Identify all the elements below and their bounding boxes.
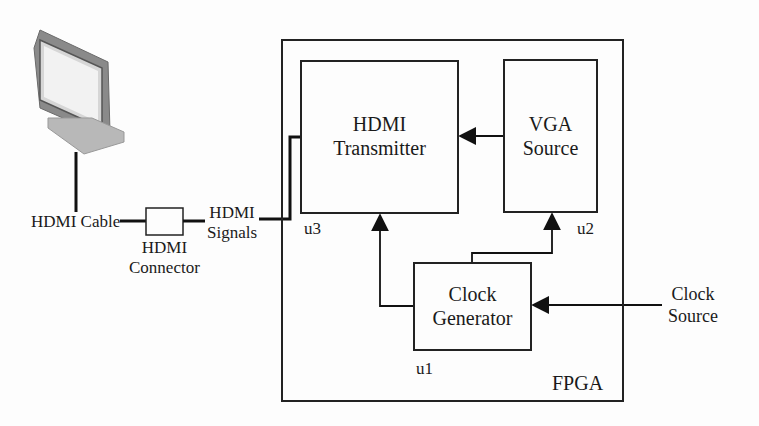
vga-line2: Source xyxy=(505,136,596,160)
clock-source-label: Clock Source xyxy=(668,283,718,327)
hdmi-connector-label: HDMI Connector xyxy=(129,238,200,278)
clock-line2: Generator xyxy=(415,306,530,330)
clock-id: u1 xyxy=(416,359,433,379)
clock-line1: Clock xyxy=(415,282,530,306)
transmitter-line1: HDMI xyxy=(302,112,457,136)
transmitter-line2: Transmitter xyxy=(302,136,457,160)
vga-id: u2 xyxy=(577,219,594,239)
transmitter-id: u3 xyxy=(304,219,321,239)
clock-generator-block[interactable]: Clock Generator xyxy=(413,262,532,351)
hdmi-connector-box xyxy=(146,208,183,235)
hdmi-transmitter-block[interactable]: HDMI Transmitter xyxy=(300,60,459,214)
vga-line1: VGA xyxy=(505,112,596,136)
monitor-icon xyxy=(34,30,124,154)
hdmi-signals-label: HDMI Signals xyxy=(207,203,257,243)
hdmi-cable-label: HDMI Cable xyxy=(31,212,120,232)
vga-source-block[interactable]: VGA Source xyxy=(503,59,598,213)
fpga-label: FPGA xyxy=(552,373,603,393)
